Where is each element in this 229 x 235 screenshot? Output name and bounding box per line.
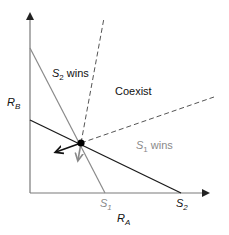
x-axis-label: RA [117,212,130,227]
dashed-boundary-lower [81,97,214,143]
s2-zngi-line [30,120,181,193]
equilibrium-point [77,139,84,146]
region-s1-wins: S1 wins [136,139,173,154]
s1-intercept-label: S1 [100,197,112,212]
region-coexist: Coexist [115,85,152,97]
s2-consumption-arrow [56,143,81,152]
dashed-boundary-upper [81,18,104,143]
s2-intercept-label: S2 [176,197,188,212]
y-axis-label: RB [7,96,21,111]
region-s2-wins: S2 wins [52,67,89,82]
resource-competition-diagram: S2 wins Coexist S1 wins RB RA S1 S2 [0,0,229,235]
